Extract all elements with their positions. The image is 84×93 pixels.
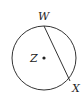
label-z: Z: [29, 52, 38, 65]
label-w: W: [38, 10, 51, 23]
circle-diagram: W Z X: [0, 0, 84, 93]
label-x: X: [71, 82, 81, 93]
center-point-z: [42, 56, 45, 59]
